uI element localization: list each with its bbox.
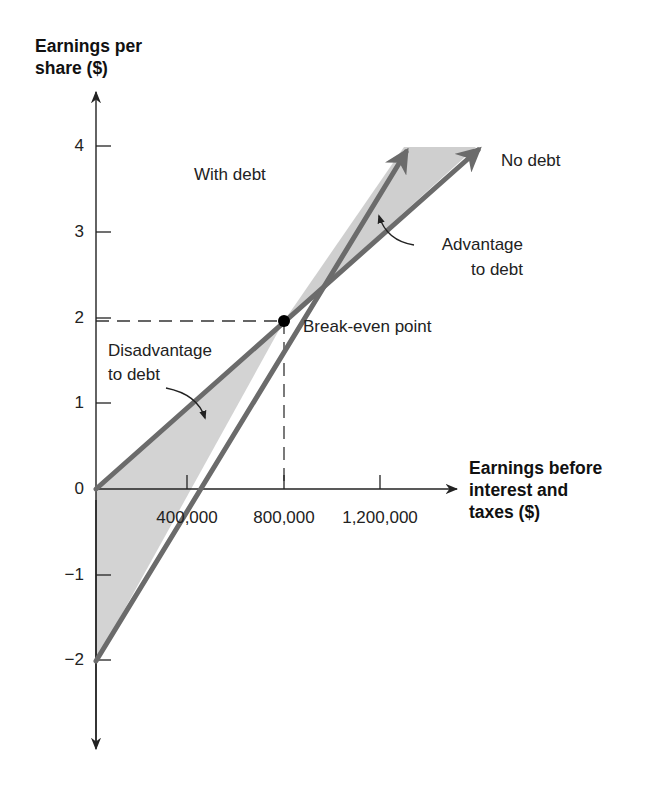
- y-tick-label: 0: [56, 479, 84, 499]
- x-tick-label: 800,000: [234, 508, 334, 528]
- y-tick-label: 2: [56, 308, 84, 328]
- y-tick-label: −2: [50, 650, 84, 670]
- x-axis-title-line3: taxes ($): [469, 502, 540, 523]
- advantage-label-line2: to debt: [400, 259, 523, 280]
- y-axis-title-line2: share ($): [35, 58, 108, 79]
- with-debt-line: [96, 152, 406, 661]
- y-axis-title-line1: Earnings per: [35, 36, 142, 57]
- x-tick-marks: [187, 475, 380, 489]
- y-tick-label: −1: [50, 565, 84, 585]
- y-tick-label: 3: [56, 222, 84, 242]
- chart-canvas: [0, 0, 658, 789]
- break-even-label: Break-even point: [303, 316, 432, 337]
- no-debt-label: No debt: [501, 150, 561, 171]
- with-debt-label: With debt: [194, 164, 266, 185]
- break-even-point: [278, 315, 290, 327]
- x-axis-title-line1: Earnings before: [469, 458, 602, 479]
- x-tick-label: 1,200,000: [330, 508, 430, 528]
- disadvantage-label-line2: to debt: [108, 364, 160, 385]
- disadvantage-label-line1: Disadvantage: [108, 340, 212, 361]
- y-tick-label: 1: [56, 393, 84, 413]
- x-tick-label: 400,000: [137, 508, 237, 528]
- advantage-label-line1: Advantage: [400, 234, 523, 255]
- y-tick-label: 4: [56, 136, 84, 156]
- x-axis-title-line2: interest and: [469, 480, 568, 501]
